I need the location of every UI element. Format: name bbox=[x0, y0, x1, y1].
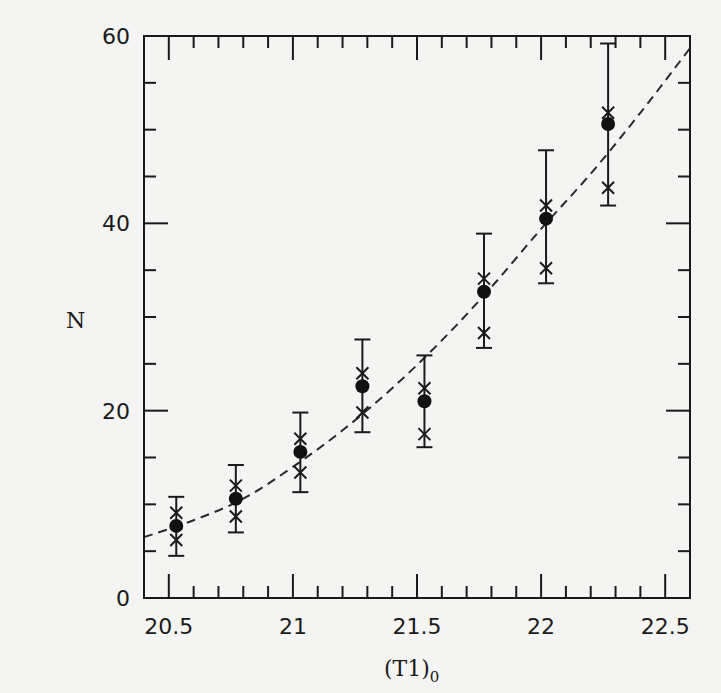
filled-circle-marker-icon bbox=[417, 394, 431, 408]
x-tick-label: 22 bbox=[527, 614, 555, 639]
x-tick-label: 21.5 bbox=[393, 614, 442, 639]
data-point bbox=[354, 339, 370, 432]
data-point bbox=[600, 43, 616, 205]
x-tick-label: 22.5 bbox=[641, 614, 690, 639]
filled-circle-marker-icon bbox=[539, 212, 553, 226]
x-axis-label-main: (T1) bbox=[384, 656, 430, 681]
y-tick-label: 60 bbox=[102, 24, 130, 49]
y-tick-labels: 0204060 bbox=[102, 24, 130, 611]
filled-circle-marker-icon bbox=[601, 117, 615, 131]
y-tick-label: 40 bbox=[102, 211, 130, 236]
y-tick-label: 20 bbox=[102, 399, 130, 424]
filled-circle-marker-icon bbox=[355, 379, 369, 393]
x-axis-label-subscript: 0 bbox=[430, 668, 440, 686]
data-point bbox=[228, 465, 244, 532]
data-point bbox=[416, 355, 432, 447]
y-axis-label: N bbox=[66, 308, 85, 333]
filled-circle-marker-icon bbox=[477, 285, 491, 299]
x-tick-labels: 20.52121.52222.5 bbox=[144, 614, 689, 639]
filled-circle-marker-icon bbox=[229, 492, 243, 506]
filled-circle-marker-icon bbox=[293, 445, 307, 459]
x-axis-label: (T1)0 bbox=[384, 656, 439, 686]
x-tick-label: 20.5 bbox=[144, 614, 193, 639]
data-point bbox=[538, 150, 554, 283]
data-point bbox=[292, 413, 308, 493]
chart: 0204060 20.52121.52222.5 N (T1)0 bbox=[0, 0, 721, 693]
x-tick-label: 21 bbox=[279, 614, 307, 639]
data-point bbox=[476, 234, 492, 348]
filled-circle-marker-icon bbox=[169, 519, 183, 533]
data-points bbox=[168, 43, 616, 555]
data-point bbox=[168, 497, 184, 556]
y-tick-label: 0 bbox=[116, 586, 130, 611]
